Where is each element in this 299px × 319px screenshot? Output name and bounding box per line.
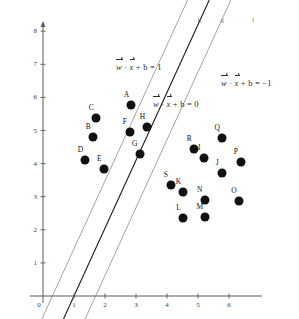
data-point-label-S: S bbox=[164, 170, 168, 179]
data-point-L bbox=[179, 213, 188, 222]
data-point-O bbox=[234, 197, 243, 206]
data-point-label-D: D bbox=[78, 145, 83, 154]
equation-margin-negative-rest: + b = −1 bbox=[239, 78, 272, 88]
line-h bbox=[42, 0, 188, 319]
data-point-E bbox=[100, 165, 109, 174]
vector-x-hyperplane: x bbox=[167, 99, 171, 109]
data-point-J bbox=[218, 168, 227, 177]
x-tick-label-5: 5 bbox=[196, 301, 200, 309]
vector-w-negative: w bbox=[221, 78, 227, 88]
equation-hyperplane: w · x + b = 0 bbox=[153, 99, 199, 109]
data-point-label-H: H bbox=[140, 112, 145, 121]
data-point-K bbox=[179, 188, 188, 197]
data-point-label-A: A bbox=[124, 90, 129, 99]
y-axis-arrow bbox=[41, 21, 46, 27]
data-point-label-G: G bbox=[132, 139, 137, 148]
data-point-label-O: O bbox=[231, 186, 236, 195]
x-tick-label-2: 2 bbox=[103, 301, 107, 309]
y-tick-label-2: 2 bbox=[34, 226, 38, 234]
vector-w-hyperplane: w bbox=[153, 99, 159, 109]
data-point-label-Q: Q bbox=[214, 123, 219, 132]
data-point-S bbox=[166, 181, 175, 190]
vector-w-positive: w bbox=[116, 62, 122, 72]
y-tick-label-1: 1 bbox=[34, 259, 38, 267]
data-point-B bbox=[89, 133, 98, 142]
data-point-P bbox=[236, 157, 245, 166]
data-point-label-C: C bbox=[89, 103, 94, 112]
equation-margin-positive-rest: + b = 1 bbox=[134, 62, 162, 72]
y-tick-label-7: 7 bbox=[34, 60, 38, 68]
data-point-label-P: P bbox=[234, 147, 238, 156]
x-tick-label-6: 6 bbox=[227, 301, 231, 309]
data-point-F bbox=[125, 128, 134, 137]
line-label-g: g bbox=[220, 16, 224, 24]
data-point-label-B: B bbox=[86, 122, 91, 131]
data-point-A bbox=[127, 100, 136, 109]
data-point-label-K: K bbox=[176, 177, 181, 186]
line-label-h: h bbox=[198, 16, 202, 24]
vector-x-negative: x bbox=[235, 78, 239, 88]
y-tick-label-6: 6 bbox=[34, 93, 38, 101]
plot-canvas bbox=[0, 0, 299, 319]
data-point-M bbox=[200, 212, 209, 221]
x-tick-label-0: 0 bbox=[37, 301, 41, 309]
y-tick-label-8: 8 bbox=[34, 27, 38, 35]
svm-margin-figure: 012345612345678hglABCDEFGHIJKLMNOPQRS w … bbox=[0, 0, 299, 319]
line-label-l: l bbox=[252, 16, 254, 24]
vector-x-positive: x bbox=[130, 62, 134, 72]
data-point-C bbox=[92, 113, 101, 122]
y-tick-label-3: 3 bbox=[34, 193, 38, 201]
data-point-label-E: E bbox=[97, 154, 102, 163]
y-tick-label-5: 5 bbox=[34, 127, 38, 135]
line-l bbox=[85, 0, 231, 319]
x-tick-label-3: 3 bbox=[134, 301, 138, 309]
data-point-label-F: F bbox=[123, 117, 127, 126]
data-point-G bbox=[135, 150, 144, 159]
data-point-Q bbox=[218, 133, 227, 142]
data-point-label-N: N bbox=[197, 185, 202, 194]
equation-hyperplane-rest: + b = 0 bbox=[171, 99, 199, 109]
data-point-label-R: R bbox=[187, 134, 192, 143]
data-point-I bbox=[200, 153, 209, 162]
equation-margin-negative: w · x + b = −1 bbox=[221, 78, 272, 88]
x-tick-label-1: 1 bbox=[72, 301, 76, 309]
data-point-N bbox=[200, 196, 209, 205]
x-tick-label-4: 4 bbox=[165, 301, 169, 309]
equation-margin-positive: w · x + b = 1 bbox=[116, 62, 162, 72]
data-point-H bbox=[143, 123, 152, 132]
y-tick-label-4: 4 bbox=[34, 160, 38, 168]
data-point-D bbox=[81, 156, 90, 165]
data-point-label-J: J bbox=[216, 158, 219, 167]
data-point-label-L: L bbox=[176, 203, 181, 212]
data-point-R bbox=[190, 144, 199, 153]
